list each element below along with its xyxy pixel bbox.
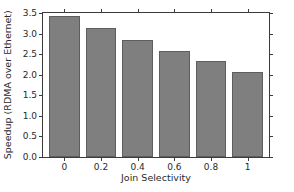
bar-slot	[193, 13, 230, 157]
x-axis-tick	[248, 157, 249, 161]
y-axis-tick-label: 0.5	[23, 132, 37, 141]
y-axis-tick-right	[269, 116, 273, 117]
bar[interactable]	[159, 51, 190, 157]
x-axis-tick-label: 0.6	[167, 163, 181, 172]
y-axis-tick-right	[269, 157, 273, 158]
x-axis-tick	[138, 157, 139, 161]
bar[interactable]	[122, 40, 153, 157]
x-axis-tick	[211, 157, 212, 161]
bar[interactable]	[49, 16, 80, 157]
x-axis-tick-label: 0.2	[94, 163, 108, 172]
x-axis-tick-label: 0.8	[204, 163, 218, 172]
y-axis-tick-right	[269, 34, 273, 35]
y-axis-tick-right	[269, 95, 273, 96]
y-axis-tick-label: 2.0	[23, 70, 37, 79]
bar-slot	[83, 13, 120, 157]
y-axis-tick-label: 2.5	[23, 50, 37, 59]
x-axis-tick	[174, 157, 175, 161]
y-axis-tick-right	[269, 54, 273, 55]
x-axis-tick-label: 0.4	[130, 163, 144, 172]
bar-chart-figure: Speedup (RDMA over Ethernet) 0.00.51.01.…	[0, 0, 294, 192]
y-axis-title-text: Speedup (RDMA over Ethernet)	[3, 10, 13, 159]
bar-slot	[229, 13, 266, 157]
bar-slot	[46, 13, 83, 157]
bars-group	[43, 13, 269, 157]
y-axis-tick-label: 3.5	[23, 9, 37, 18]
x-axis-tick	[101, 157, 102, 161]
y-axis-tick-right	[269, 136, 273, 137]
y-axis-tick-right	[269, 75, 273, 76]
bar-slot	[119, 13, 156, 157]
y-axis-tick-label: 3.0	[23, 29, 37, 38]
bar[interactable]	[232, 72, 263, 157]
x-axis-tick-label: 1	[245, 163, 251, 172]
x-axis-tick-label: 0	[61, 163, 67, 172]
bar[interactable]	[196, 61, 227, 157]
y-axis-tick-label: 1.5	[23, 91, 37, 100]
x-axis-title-text: Join Selectivity	[121, 172, 191, 183]
x-axis-title: Join Selectivity	[42, 173, 270, 183]
y-axis-tick-right	[269, 13, 273, 14]
plot-area: 0.00.51.01.52.02.53.03.5 00.20.40.60.81	[42, 12, 270, 158]
y-axis-tick-label: 1.0	[23, 111, 37, 120]
y-axis-title: Speedup (RDMA over Ethernet)	[2, 12, 14, 158]
y-axis-tick-label: 0.0	[23, 153, 37, 162]
y-axis-tick	[39, 157, 43, 158]
bar[interactable]	[86, 28, 117, 157]
x-axis-tick	[64, 157, 65, 161]
bar-slot	[156, 13, 193, 157]
